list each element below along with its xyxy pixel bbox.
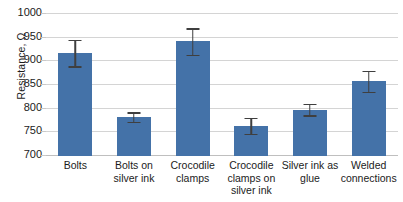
error-bar-cap-upper (303, 104, 316, 106)
error-bar-cap-lower (245, 134, 258, 136)
bar[interactable] (176, 41, 210, 156)
error-bar-cap-lower (186, 55, 199, 57)
y-axis-tick-mark (41, 13, 46, 14)
error-bar-line (192, 28, 194, 55)
y-axis-tick-label: 900 (24, 54, 42, 65)
y-axis-tick-label: 800 (24, 102, 42, 113)
x-axis-category-label: Silver ink as glue (281, 159, 340, 184)
y-axis-tick-mark (41, 60, 46, 61)
bars-layer (46, 13, 398, 156)
x-axis-category-labels: BoltsBolts on silver inkCrocodile clamps… (46, 159, 398, 202)
x-axis-category-label: Bolts (46, 159, 105, 172)
bar-group[interactable] (105, 13, 164, 156)
y-axis-tick-mark (41, 155, 46, 156)
error-bar-cap-upper (69, 40, 82, 42)
y-axis-tick-labels: 1000950900850800750700 (0, 0, 44, 160)
y-axis-tick-mark (41, 84, 46, 85)
x-axis-category-label: Crocodile clamps on silver ink (222, 159, 281, 197)
y-axis-tick-label: 1000 (18, 7, 42, 18)
error-bar-cap-lower (362, 92, 375, 94)
x-axis-category-label: Welded connections (339, 159, 398, 184)
error-bar-cap-lower (303, 115, 316, 117)
x-axis-category-label: Crocodile clamps (163, 159, 222, 184)
bar-group[interactable] (46, 13, 105, 156)
error-bar-cap-upper (186, 28, 199, 30)
error-bar-cap-upper (127, 112, 140, 114)
y-axis-tick-mark (41, 37, 46, 38)
y-axis-tick-mark (41, 131, 46, 132)
error-bar-line (75, 40, 77, 67)
bar-group[interactable] (222, 13, 281, 156)
error-bar-cap-upper (362, 71, 375, 73)
error-bar-line (251, 118, 253, 134)
bar-group[interactable] (163, 13, 222, 156)
error-bar-cap-lower (69, 66, 82, 68)
y-axis-tick-label: 700 (24, 149, 42, 160)
error-bar-cap-upper (245, 118, 258, 120)
y-axis-tick-label: 750 (24, 125, 42, 136)
bar-group[interactable] (281, 13, 340, 156)
y-axis-tick-label: 950 (24, 31, 42, 42)
error-bar-cap-lower (127, 122, 140, 124)
bar[interactable] (58, 53, 92, 156)
error-bar-line (309, 104, 311, 115)
resistance-bar-chart: Resistance, Ω 1000950900850800750700 Bol… (0, 0, 403, 202)
y-axis-tick-label: 850 (24, 78, 42, 89)
error-bar-line (368, 71, 370, 92)
x-axis-category-label: Bolts on silver ink (105, 159, 164, 184)
bar-group[interactable] (339, 13, 398, 156)
y-axis-tick-mark (41, 108, 46, 109)
